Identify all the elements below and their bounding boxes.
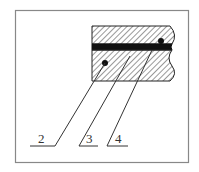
callout-label-3: 3 [86,131,93,146]
middle-band [92,44,172,50]
callout-label-4: 4 [115,131,122,146]
dot-marker-upper [158,38,164,44]
callout-label-2: 2 [38,131,45,146]
cross-section-diagram: 2 3 4 [0,0,199,172]
